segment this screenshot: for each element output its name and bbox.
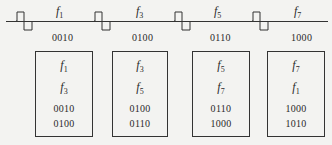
square-pulse-icon (16, 11, 36, 31)
square-pulse-icon (174, 11, 194, 31)
freq-index: 7 (296, 65, 300, 74)
box-frequency-a: f3 (136, 58, 143, 77)
box-frequency-b: f3 (60, 80, 67, 99)
box-frequency-a: f1 (60, 58, 67, 77)
freq-index: 3 (139, 11, 143, 20)
freq-index: 3 (64, 88, 68, 97)
signal-baseline (6, 21, 328, 22)
freq-index: 1 (296, 88, 300, 97)
box-code-a: 1000 (285, 103, 306, 115)
frequency-pair-box: f3 f5 0100 0110 (112, 51, 168, 137)
frequency-pair-box: f1 f3 0010 0100 (35, 51, 93, 137)
box-code-a: 0100 (129, 103, 150, 115)
freq-index: 1 (59, 11, 63, 20)
box-code-b: 0100 (53, 118, 74, 130)
box-frequency-a: f5 (217, 58, 224, 77)
pulse-code-label: 0010 (52, 32, 73, 43)
frequency-pair-box: f5 f7 0110 1000 (192, 51, 250, 137)
freq-index: 5 (221, 65, 225, 74)
frequency-pair-box: f7 f1 1000 1010 (267, 51, 325, 137)
box-frequency-b: f7 (217, 80, 224, 99)
box-frequency-b: f1 (292, 80, 299, 99)
freq-index: 7 (221, 88, 225, 97)
box-code-b: 1000 (210, 118, 231, 130)
box-frequency-b: f5 (136, 80, 143, 99)
freq-index: 5 (217, 11, 221, 20)
pulse-frequency-label: f1 (56, 4, 63, 20)
pulse-frequency-label: f7 (294, 4, 301, 20)
freq-index: 7 (297, 11, 301, 20)
box-code-a: 0010 (53, 103, 74, 115)
box-frequency-a: f7 (292, 58, 299, 77)
pulse-frequency-label: f3 (136, 4, 143, 20)
freq-index: 1 (64, 65, 68, 74)
pulse-code-label: 0100 (132, 32, 153, 43)
box-code-a: 0110 (211, 103, 232, 115)
freq-index: 5 (140, 88, 144, 97)
pulse-code-label: 1000 (291, 32, 312, 43)
pulse-frequency-label: f5 (214, 4, 221, 20)
box-code-b: 0110 (130, 118, 151, 130)
pulse-code-label: 0110 (210, 32, 231, 43)
box-code-b: 1010 (285, 118, 306, 130)
square-pulse-icon (252, 11, 272, 31)
freq-index: 3 (140, 65, 144, 74)
square-pulse-icon (94, 11, 114, 31)
